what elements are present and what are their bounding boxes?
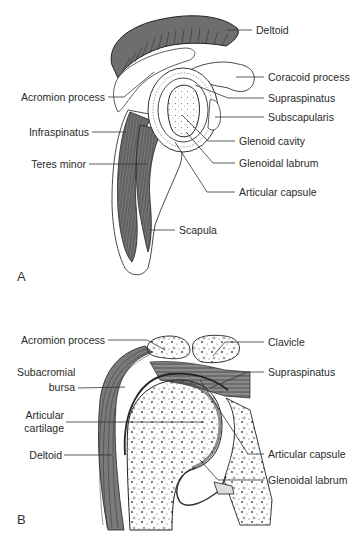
label-glenoid-cavity: Glenoid cavity — [239, 135, 305, 147]
label-teres-minor: Teres minor — [17, 158, 86, 170]
label-coracoid-process: Coracoid process — [268, 71, 350, 83]
shoulder-lateral-illustration — [0, 0, 359, 290]
label-supraspinatus-b: Supraspinatus — [268, 366, 335, 378]
acromion-bone-section — [147, 336, 190, 359]
panel-a: Deltoid Coracoid process Acromion proces… — [0, 0, 359, 290]
panel-letter-a: A — [17, 269, 26, 284]
label-articular-capsule: Articular capsule — [239, 186, 317, 198]
label-articular-cartilage-line2: cartilage — [17, 422, 64, 434]
label-deltoid-b: Deltoid — [17, 449, 62, 461]
label-glenoidal-labrum-b: Glenoidal labrum — [268, 474, 347, 486]
glenoid-cavity — [168, 85, 200, 137]
label-articular-cartilage-line1: Articular — [17, 409, 64, 421]
label-deltoid: Deltoid — [256, 24, 289, 36]
label-clavicle: Clavicle — [268, 336, 305, 348]
label-infraspinatus: Infraspinatus — [17, 126, 89, 138]
label-articular-capsule-b: Articular capsule — [268, 448, 346, 460]
label-acromion-process-b: Acromion process — [17, 334, 105, 346]
clavicle-bone-section — [192, 335, 239, 362]
panel-letter-b: B — [17, 512, 26, 527]
label-glenoidal-labrum: Glenoidal labrum — [239, 157, 318, 169]
label-subscapularis: Subscapularis — [268, 111, 334, 123]
panel-b: Acromion process Clavicle Subacromial bu… — [0, 290, 359, 533]
subscapularis-muscle — [208, 100, 221, 130]
label-subacromial-bursa-line1: Subacromial — [17, 366, 75, 378]
label-supraspinatus: Supraspinatus — [268, 92, 335, 104]
label-scapula: Scapula — [179, 224, 217, 236]
label-subacromial-bursa-line2: bursa — [17, 381, 75, 393]
humerus-bone-section — [127, 380, 222, 530]
scapula-bone-section — [224, 398, 272, 525]
label-acromion-process: Acromion process — [17, 91, 105, 103]
